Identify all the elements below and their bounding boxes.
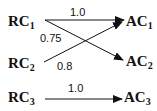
node-rc1: RC1 <box>8 13 35 31</box>
node-ac2: AC2 <box>126 53 153 71</box>
weight-rc1-ac1: 1.0 <box>70 6 85 18</box>
node-rc2: RC2 <box>8 55 35 73</box>
weight-rc2-ac1: 0.8 <box>57 60 72 72</box>
weight-rc1-ac2: 0.75 <box>40 32 61 44</box>
node-ac1: AC1 <box>126 13 153 31</box>
mapping-diagram: RC1 RC2 RC3 AC1 AC2 AC3 1.0 0.75 0.8 1.0 <box>0 0 157 111</box>
weight-rc3-ac3: 1.0 <box>68 82 83 94</box>
node-ac3: AC3 <box>124 89 151 107</box>
node-rc3: RC3 <box>8 89 35 107</box>
